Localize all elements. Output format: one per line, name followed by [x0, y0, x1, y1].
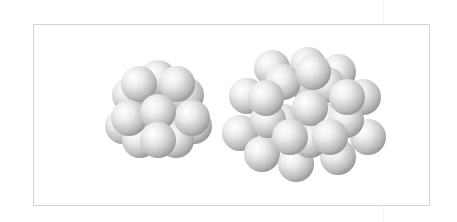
sphere-atom: [295, 54, 331, 90]
sphere-atom: [174, 100, 210, 136]
sphere-atom: [312, 119, 348, 155]
sphere-atom: [329, 79, 365, 115]
cluster-scene: [0, 0, 457, 222]
large-cluster: [222, 47, 386, 182]
small-cluster: [105, 60, 212, 158]
sphere-atom: [272, 119, 308, 155]
sphere-atom: [248, 80, 284, 116]
sphere-atom: [140, 122, 176, 158]
